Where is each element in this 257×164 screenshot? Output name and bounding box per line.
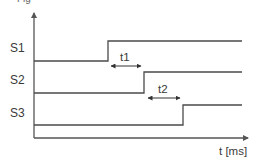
- signal-s2: S2: [10, 72, 242, 93]
- waveform-s1: [34, 41, 242, 61]
- timing-diagram: Fig t [ms] S1 S2 S3 t1 t2: [0, 0, 257, 164]
- interval-label-t2: t2: [158, 83, 168, 95]
- waveform-s2: [34, 72, 242, 93]
- signal-label-s3: S3: [10, 106, 25, 120]
- signal-label-s1: S1: [10, 41, 25, 55]
- signal-label-s2: S2: [10, 73, 25, 87]
- interval-t1: t1: [111, 51, 141, 66]
- x-axis-label: t [ms]: [219, 145, 247, 157]
- waveform-s3: [34, 105, 242, 125]
- interval-t2: t2: [148, 83, 180, 98]
- cropped-heading: Fig: [17, 0, 31, 4]
- axes: t [ms]: [34, 13, 248, 157]
- signal-s3: S3: [10, 105, 242, 125]
- interval-label-t1: t1: [120, 51, 130, 63]
